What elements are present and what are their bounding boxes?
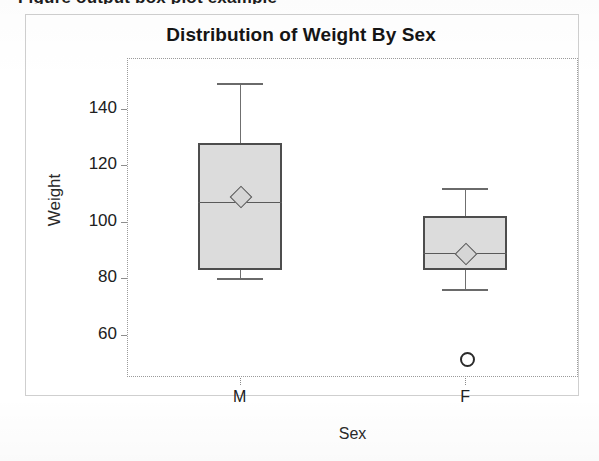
- whisker-cap-lower: [442, 289, 488, 291]
- y-axis-tick-label: 140: [55, 98, 117, 118]
- y-axis-tick-label: 60: [55, 324, 117, 344]
- x-axis-title: Sex: [127, 425, 578, 443]
- whisker-cap-upper: [442, 188, 488, 190]
- y-axis-tick-label: 80: [55, 267, 117, 287]
- outlier-point: [460, 352, 475, 367]
- chart-title: Distribution of Weight By Sex: [25, 24, 577, 46]
- plot-area: [127, 58, 578, 377]
- y-axis-tick-label: 120: [55, 154, 117, 174]
- x-axis-tick-label: M: [210, 388, 270, 406]
- x-axis-tick-label: F: [435, 388, 495, 406]
- whisker-lower: [465, 270, 466, 290]
- clipped-top-text: Figure output box plot example: [0, 0, 599, 4]
- x-axis-tick-mark: [465, 378, 466, 385]
- whisker-upper: [465, 188, 466, 216]
- x-axis-tick-mark: [240, 378, 241, 385]
- y-axis-tick-label: 100: [55, 211, 117, 231]
- box-plot-f: [128, 59, 577, 376]
- clipped-top-text-label: Figure output box plot example: [0, 0, 599, 4]
